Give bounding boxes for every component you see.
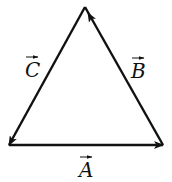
label-c: C [25, 57, 40, 82]
label-a: A [77, 157, 93, 182]
label-b-text: B [130, 59, 146, 83]
vector-b [85, 7, 163, 145]
label-b: B [130, 58, 146, 83]
vector-c [9, 7, 85, 145]
label-c-text: C [25, 58, 40, 82]
label-a-text: A [77, 158, 93, 182]
vector-triangle-diagram: C B A [0, 0, 172, 182]
diagram-svg: C B A [0, 0, 172, 182]
